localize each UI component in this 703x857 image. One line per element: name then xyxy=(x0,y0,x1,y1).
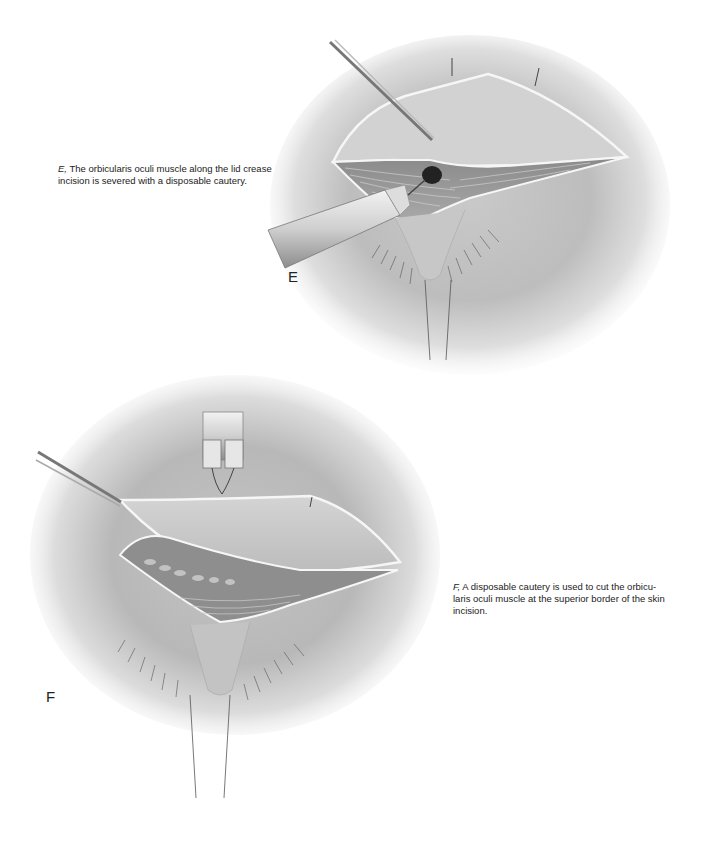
figure-e-caption-lead: E, xyxy=(58,163,67,174)
surgical-illustrations xyxy=(0,0,703,857)
figure-e-caption: E, The orbicularis oculi muscle along th… xyxy=(58,163,298,187)
figure-f-label: F xyxy=(46,688,55,705)
figure-f-caption-line3: incision. xyxy=(453,605,487,616)
figure-e-caption-line2: incision is severed with a disposable ca… xyxy=(58,175,247,186)
figure-e-caption-line1: The orbicularis oculi muscle along the l… xyxy=(67,163,272,174)
figure-f-drawing xyxy=(30,375,440,798)
figure-f-caption: F, A disposable cautery is used to cut t… xyxy=(453,581,693,617)
figure-f-caption-line1: A disposable cautery is used to cut the … xyxy=(460,581,656,592)
figure-e-label: E xyxy=(288,268,298,285)
figure-e-drawing xyxy=(268,35,670,375)
figure-f-caption-line2: laris oculi muscle at the superior borde… xyxy=(453,593,665,604)
